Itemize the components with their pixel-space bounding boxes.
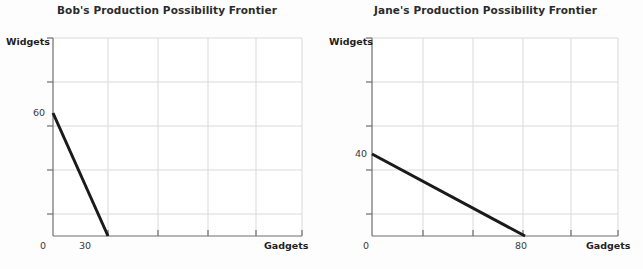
- figure-panels: Bob's Production Possibility Frontier: [0, 0, 643, 269]
- x-tick-label-0-bob: 0: [40, 240, 46, 251]
- x-tick-label-0-jane: 0: [363, 240, 369, 251]
- y-tick-label-60-bob: 60: [33, 107, 45, 118]
- chart-panel-jane: Jane's Production Possibility Frontier: [322, 0, 643, 269]
- y-ticks-bob: [47, 38, 53, 214]
- y-axis-label-jane: Widgets: [329, 36, 373, 47]
- plot-background: [53, 38, 302, 236]
- y-axis-label-bob: Widgets: [6, 36, 50, 47]
- x-tick-label-30-bob: 30: [79, 240, 91, 251]
- y-ticks-jane: [366, 38, 372, 214]
- x-axis-label-bob: Gadgets: [264, 240, 308, 251]
- y-tick-label-40-jane: 40: [355, 148, 367, 159]
- x-tick-label-80-jane: 80: [515, 240, 527, 251]
- x-axis-label-jane: Gadgets: [586, 240, 630, 251]
- plot-background: [372, 38, 618, 236]
- chart-panel-bob: Bob's Production Possibility Frontier: [0, 0, 322, 269]
